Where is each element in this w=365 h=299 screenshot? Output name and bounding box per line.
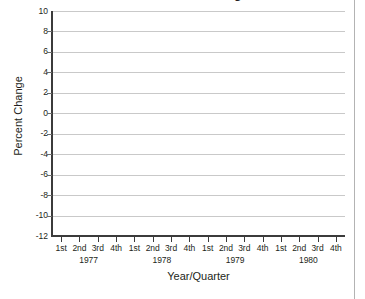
y-axis-tick-label: 6 xyxy=(4,47,48,56)
gridline xyxy=(52,52,345,53)
x-axis-tick-mark xyxy=(299,237,300,242)
chart-page: Percent Change 1086420-2-4-6-8-10-12 1st… xyxy=(0,0,365,299)
y-axis-title: Percent Change xyxy=(12,46,24,186)
x-axis-tick-mark xyxy=(244,237,245,242)
y-axis-line xyxy=(51,11,53,237)
x-axis-year-label: 1978 xyxy=(132,255,192,265)
y-axis-tick-label: -8 xyxy=(4,191,48,200)
x-axis-tick-mark xyxy=(318,237,319,242)
y-axis-tick-mark xyxy=(47,195,52,196)
x-axis-tick-mark xyxy=(153,237,154,242)
x-axis-year-label: 1979 xyxy=(205,255,265,265)
gridline xyxy=(52,31,345,32)
x-axis-tick-mark xyxy=(263,237,264,242)
x-axis-tick-mark xyxy=(79,237,80,242)
x-axis-tick-mark xyxy=(281,237,282,242)
gridline xyxy=(52,93,345,94)
y-axis-tick-mark xyxy=(47,113,52,114)
page-border-right xyxy=(354,0,355,299)
gridline xyxy=(52,11,345,12)
y-axis-ticks: 1086420-2-4-6-8-10-12 xyxy=(0,0,48,299)
gridline xyxy=(52,154,345,155)
x-axis-year-label: 1980 xyxy=(278,255,338,265)
y-axis-tick-label: 4 xyxy=(4,68,48,77)
x-axis-tick-mark xyxy=(116,237,117,242)
x-axis-year-label: 1977 xyxy=(59,255,119,265)
gridline xyxy=(52,113,345,114)
y-axis-tick-mark xyxy=(47,216,52,217)
y-axis-tick-label: -12 xyxy=(4,232,48,241)
x-axis-tick-mark xyxy=(134,237,135,242)
y-axis-tick-mark xyxy=(47,31,52,32)
gridline xyxy=(52,134,345,135)
x-axis-title: Year/Quarter xyxy=(52,270,345,282)
x-axis-tick-mark xyxy=(98,237,99,242)
gridline xyxy=(52,175,345,176)
plot-area xyxy=(52,11,345,236)
y-axis-tick-label: 0 xyxy=(4,109,48,118)
y-axis-tick-label: 8 xyxy=(4,27,48,36)
x-axis-line xyxy=(51,235,345,237)
x-axis-tick-mark xyxy=(208,237,209,242)
y-axis-tick-label: -2 xyxy=(4,129,48,138)
x-axis-tick-mark xyxy=(226,237,227,242)
y-axis-tick-mark xyxy=(47,134,52,135)
y-axis-tick-mark xyxy=(47,72,52,73)
y-axis-tick-mark xyxy=(47,154,52,155)
gridline xyxy=(52,72,345,73)
y-axis-tick-label: -4 xyxy=(4,150,48,159)
y-axis-tick-mark xyxy=(47,52,52,53)
y-axis-tick-mark xyxy=(47,93,52,94)
x-axis-tick-label: 4th xyxy=(321,243,351,253)
y-axis-tick-label: -6 xyxy=(4,170,48,179)
x-axis-tick-mark xyxy=(171,237,172,242)
x-axis-tick-mark xyxy=(189,237,190,242)
gridline xyxy=(52,195,345,196)
x-axis-tick-mark xyxy=(61,237,62,242)
gridline xyxy=(52,216,345,217)
y-axis-tick-label: -10 xyxy=(4,211,48,220)
chart-title: Percent Change xyxy=(52,0,345,1)
y-axis-tick-label: 2 xyxy=(4,88,48,97)
x-axis-tick-mark xyxy=(336,237,337,242)
y-axis-tick-label: 10 xyxy=(4,7,48,16)
y-axis-tick-mark xyxy=(47,175,52,176)
